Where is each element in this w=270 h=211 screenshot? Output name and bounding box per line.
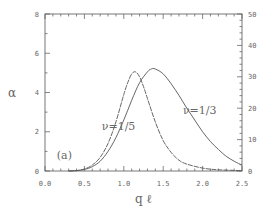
y-right-tick-label: 50 xyxy=(248,11,256,19)
y-left-tick-label: 8 xyxy=(35,11,39,19)
axes-frame xyxy=(45,14,242,171)
x-tick-label: 1.0 xyxy=(117,180,130,188)
plot-frame xyxy=(45,14,242,171)
y-right-tick-label: 40 xyxy=(248,42,256,50)
y-right-tick-label: 10 xyxy=(248,136,256,144)
y-right-tick-label: 30 xyxy=(248,73,256,81)
chart: 0.00.51.01.52.02.50246801020304050ν=1/5ν… xyxy=(0,0,270,211)
y-left-tick-label: 2 xyxy=(35,128,39,136)
y-left-tick-label: 4 xyxy=(35,89,39,97)
x-tick-label: 2.5 xyxy=(236,180,249,188)
y-left-tick-label: 0 xyxy=(35,168,39,176)
series-line-nu-1-5 xyxy=(69,72,242,171)
series-annotation: ν=1/5 xyxy=(102,120,136,133)
x-tick-label: 1.5 xyxy=(157,180,170,188)
x-tick-label: 2.0 xyxy=(196,180,209,188)
y-axis-label: α xyxy=(8,86,16,100)
series-curves xyxy=(69,68,242,171)
y-right-tick-label: 20 xyxy=(248,105,256,113)
y-right-tick-label: 0 xyxy=(248,168,252,176)
x-axis-label: q ℓ xyxy=(135,192,152,206)
y-left-tick-label: 6 xyxy=(35,50,39,58)
x-tick-label: 0.0 xyxy=(39,180,52,188)
x-tick-label: 0.5 xyxy=(78,180,91,188)
series-line-nu-1-3 xyxy=(69,68,242,171)
series-annotation: ν=1/3 xyxy=(183,104,217,117)
panel-label: (a) xyxy=(57,149,72,162)
axis-ticks xyxy=(45,14,242,171)
